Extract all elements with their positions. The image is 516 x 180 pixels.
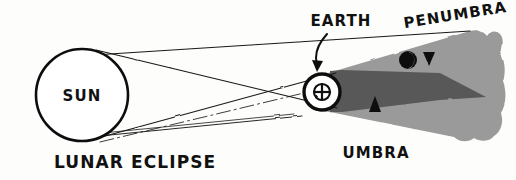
earth-arrow-head: [312, 60, 323, 72]
sun-label: SUN: [63, 87, 102, 105]
earth-body: [304, 74, 340, 110]
figure-caption: LUNAR ECLIPSE: [54, 152, 216, 172]
ray-lower-secondary: [103, 114, 294, 133]
penumbra-label: PENUMBRA: [402, 0, 508, 32]
earth-arrow-shaft: [316, 34, 327, 64]
ray-lower-tangent: [98, 73, 336, 138]
optical-axis: [100, 92, 308, 142]
earth-label: EARTH: [310, 12, 371, 30]
ray-lower-outer: [100, 116, 302, 136]
ray-upper-tangent: [96, 50, 337, 108]
diagram-canvas: SUN EARTH PENUMBRA UMBRA: [0, 0, 516, 180]
moon-body: [399, 51, 417, 69]
sun-body: SUN: [36, 49, 128, 141]
lunar-eclipse-diagram: SUN EARTH PENUMBRA UMBRA: [0, 0, 516, 180]
umbra-label: UMBRA: [342, 144, 409, 162]
